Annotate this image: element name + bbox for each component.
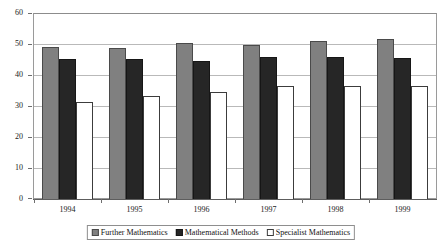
x-tick-mark bbox=[369, 199, 370, 203]
y-tick-label: 40 bbox=[0, 71, 23, 79]
y-tick-mark bbox=[28, 168, 32, 169]
x-tick-slot bbox=[34, 199, 101, 203]
y-tick-mark bbox=[28, 137, 32, 138]
bar-group bbox=[101, 14, 168, 199]
legend-entry: Mathematical Methods bbox=[176, 228, 259, 237]
x-tick-slot bbox=[235, 199, 302, 203]
x-axis-labels: 199419951996199719981999 bbox=[34, 204, 436, 218]
bar bbox=[377, 39, 394, 199]
legend-swatch-icon bbox=[92, 229, 99, 236]
x-tick-mark bbox=[101, 199, 102, 203]
bar-group bbox=[168, 14, 235, 199]
bar bbox=[310, 41, 327, 199]
bar-group bbox=[302, 14, 369, 199]
x-tick-slot bbox=[302, 199, 369, 203]
y-tick-label: 60 bbox=[0, 9, 23, 17]
legend-label: Mathematical Methods bbox=[185, 228, 259, 237]
bar bbox=[210, 92, 227, 199]
bar bbox=[260, 57, 277, 199]
x-tick-label: 1996 bbox=[168, 204, 235, 218]
bar-group bbox=[34, 14, 101, 199]
y-tick-mark bbox=[28, 198, 32, 199]
bar bbox=[394, 58, 411, 199]
legend-swatch-icon bbox=[176, 229, 183, 236]
bar bbox=[411, 86, 428, 199]
bar bbox=[76, 102, 93, 199]
bar bbox=[344, 86, 361, 199]
y-tick-label: 30 bbox=[0, 102, 23, 110]
plot-area bbox=[34, 14, 436, 199]
x-tick-label: 1998 bbox=[302, 204, 369, 218]
legend-swatch-icon bbox=[267, 229, 274, 236]
legend-label: Further Mathematics bbox=[101, 228, 168, 237]
x-tick-slot bbox=[101, 199, 168, 203]
y-tick-label: 0 bbox=[0, 195, 23, 203]
x-tick-mark bbox=[302, 199, 303, 203]
legend-entry: Further Mathematics bbox=[92, 228, 168, 237]
y-axis: 0102030405060 bbox=[0, 13, 30, 199]
y-tick-label: 50 bbox=[0, 40, 23, 48]
bar bbox=[176, 43, 193, 199]
bar bbox=[59, 59, 76, 199]
y-tick-label: 20 bbox=[0, 133, 23, 141]
x-tick-label: 1995 bbox=[101, 204, 168, 218]
chart-legend: Further MathematicsMathematical MethodsS… bbox=[87, 225, 355, 240]
legend-label: Specialist Mathematics bbox=[276, 228, 350, 237]
x-tick-label: 1997 bbox=[235, 204, 302, 218]
y-tick-label: 10 bbox=[0, 164, 23, 172]
bar bbox=[193, 61, 210, 199]
bar bbox=[42, 47, 59, 199]
bar bbox=[126, 59, 143, 199]
y-tick-mark bbox=[28, 44, 32, 45]
bar-chart: 0102030405060 199419951996199719981999 F… bbox=[0, 0, 442, 249]
bar-group bbox=[369, 14, 436, 199]
y-tick-mark bbox=[28, 13, 32, 14]
bar bbox=[143, 96, 160, 199]
y-tick-mark bbox=[28, 75, 32, 76]
bar bbox=[277, 86, 294, 199]
x-axis-ticks bbox=[34, 199, 436, 203]
x-tick-label: 1994 bbox=[34, 204, 101, 218]
bar bbox=[327, 57, 344, 199]
bar-group bbox=[235, 14, 302, 199]
x-tick-mark bbox=[235, 199, 236, 203]
x-tick-label: 1999 bbox=[369, 204, 436, 218]
legend-entry: Specialist Mathematics bbox=[267, 228, 350, 237]
y-tick-mark bbox=[28, 106, 32, 107]
x-tick-mark bbox=[168, 199, 169, 203]
bar bbox=[243, 45, 260, 199]
bar bbox=[109, 48, 126, 199]
x-tick-slot bbox=[369, 199, 436, 203]
x-tick-slot bbox=[168, 199, 235, 203]
x-tick-mark bbox=[34, 199, 35, 203]
